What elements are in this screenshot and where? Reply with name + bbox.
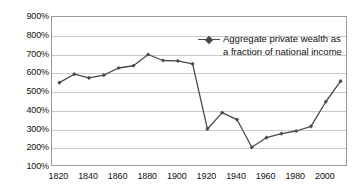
x-tick-label: 1860 [108,172,128,181]
x-tick-label: 1960 [256,172,276,181]
legend-label: Aggregate private wealth as a fraction o… [223,33,348,58]
chart-legend: Aggregate private wealth as a fraction o… [198,33,348,58]
legend-label-line-3: income [311,46,342,57]
legend-line-marker-icon [198,33,220,45]
legend-item: Aggregate private wealth as a fraction o… [198,33,348,58]
legend-label-line-1: Aggregate private wealth [223,33,328,44]
x-tick-label: 1900 [167,172,187,181]
x-tick-label: 1840 [78,172,98,181]
x-tick-label: 1820 [49,172,69,181]
x-tick-label: 1980 [285,172,305,181]
wealth-to-income-line-chart: 100%200%300%400%500%600%700%800%900% 182… [0,0,362,195]
x-tick-label: 1880 [137,172,157,181]
x-tick-label: 2000 [315,172,335,181]
x-axis: 1820184018601880190019201940196019802000 [0,0,362,195]
x-tick-label: 1920 [197,172,217,181]
x-tick-label: 1940 [226,172,246,181]
